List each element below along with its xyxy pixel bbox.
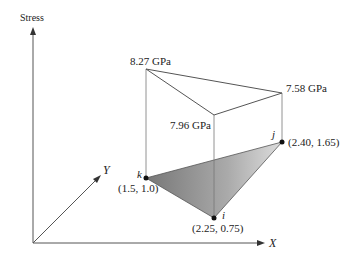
node-i [212,216,217,221]
diagram-canvas [0,0,357,263]
stress-plane [146,69,282,115]
stress-arrow-icon [30,27,36,35]
node-i-label: i [222,209,225,221]
stress-element-diagram: Stress X Y 8.27 GPa 7.96 GPa 7.58 GPa k … [0,0,357,263]
stress-i: 7.96 GPa [170,119,211,131]
y-axis-label: Y [103,163,110,178]
x-axis-label: X [269,236,276,251]
x-arrow-icon [257,240,265,246]
node-j-label: j [272,128,275,140]
stress-axis-label: Stress [20,12,44,23]
coord-k: (1.5, 1.0) [118,182,158,194]
coord-i: (2.25, 0.75) [192,222,243,234]
node-k [144,176,149,181]
node-k-label: k [137,168,142,180]
node-j [280,140,285,145]
y-axis [33,178,98,243]
stress-j: 7.58 GPa [286,82,327,94]
coord-j: (2.40, 1.65) [288,136,339,148]
stress-k: 8.27 GPa [130,55,171,67]
